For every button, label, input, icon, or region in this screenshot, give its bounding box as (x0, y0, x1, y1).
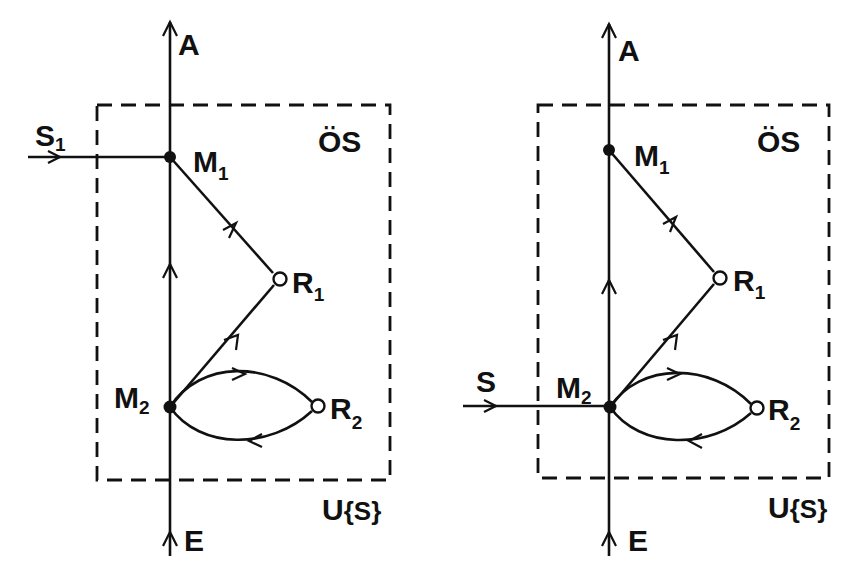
label-r2: R2 (330, 392, 362, 433)
label-input: S1 (35, 119, 66, 155)
diagram-canvas: A E ÖS U{S} S1 M1 M2 R1 R2 A E (0, 0, 857, 573)
diagram-left: A E ÖS U{S} S1 M1 M2 R1 R2 (28, 22, 390, 557)
edge-r2-m2-lower (170, 407, 312, 440)
node-r1 (274, 273, 287, 286)
arrow-left-icon (249, 434, 262, 447)
label-axis-bottom: E (628, 524, 648, 557)
label-axis-bottom: E (184, 524, 204, 557)
label-m1: M1 (634, 139, 670, 178)
node-r1 (714, 272, 727, 285)
label-lower-system: U{S} (322, 493, 381, 526)
edge-r2-m2-lower (610, 407, 751, 440)
label-lower-system: U{S} (768, 491, 827, 524)
label-r1: R1 (733, 264, 766, 303)
label-input: S (476, 365, 496, 398)
label-axis-top: A (618, 34, 640, 67)
label-m2: M2 (556, 371, 592, 408)
node-m2 (604, 401, 617, 414)
label-m1: M1 (193, 145, 229, 184)
label-r2: R2 (768, 393, 800, 434)
label-upper-system: ÖS (318, 125, 361, 158)
arrow-right-icon (232, 368, 245, 380)
arrow-left-icon (689, 434, 702, 448)
label-axis-top: A (178, 28, 200, 61)
label-r1: R1 (292, 266, 325, 305)
label-upper-system: ÖS (757, 125, 800, 158)
node-m1 (603, 144, 615, 156)
node-m2 (164, 401, 177, 414)
node-r2 (312, 400, 325, 413)
diagram-right: A E ÖS U{S} S M1 M2 R1 R2 (463, 24, 829, 557)
label-m2: M2 (114, 381, 150, 418)
node-r2 (751, 402, 764, 415)
node-m1 (164, 151, 176, 163)
edge-m2-r2-upper (610, 373, 751, 407)
